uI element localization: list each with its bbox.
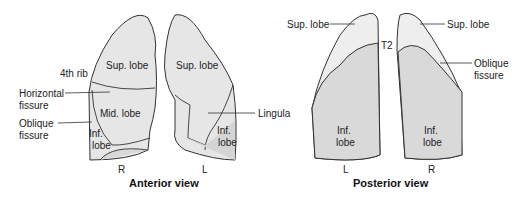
post-r-sup-lobe-callout: Sup. lobe [447, 19, 489, 30]
ant-r-side: R [118, 164, 125, 175]
ant-l-inf-label-2: lobe [218, 137, 237, 148]
oblique-fissure-callout-2: fissure [19, 130, 48, 141]
ant-r-inf-label-2: lobe [92, 140, 111, 151]
post-oblique-fissure-callout-2: fissure [474, 70, 503, 81]
ant-l-side: L [202, 164, 208, 175]
ant-l-inf-label-1: Inf. [217, 125, 231, 136]
oblique-fissure-callout-1: Oblique [19, 118, 53, 129]
post-l-side: L [343, 164, 349, 175]
anterior-view-title: Anterior view [129, 177, 199, 189]
horizontal-fissure-callout-2: fissure [19, 100, 48, 111]
horizontal-fissure-callout-1: Horizontal [19, 88, 64, 99]
post-oblique-fissure-callout-1: Oblique [474, 58, 508, 69]
posterior-view-title: Posterior view [353, 177, 428, 189]
post-l-inf-label-2: lobe [336, 137, 355, 148]
post-l-sup-lobe-callout: Sup. lobe [287, 19, 329, 30]
post-r-side: R [428, 164, 435, 175]
post-r-inf-label-2: lobe [423, 137, 442, 148]
t2-callout: T2 [381, 40, 393, 51]
post-r-inf-label-1: Inf. [424, 125, 438, 136]
ant-r-mid-lobe-label: Mid. lobe [100, 108, 141, 119]
post-l-inf-label-1: Inf. [337, 125, 351, 136]
ant-l-sup-lobe-label: Sup. lobe [176, 60, 218, 71]
ant-r-inf-label-1: Inf. [89, 128, 103, 139]
ant-r-sup-lobe-label: Sup. lobe [106, 60, 148, 71]
lung-diagram [0, 0, 525, 201]
lingula-callout: Lingula [258, 108, 290, 119]
rib-callout: 4th rib [60, 68, 88, 79]
